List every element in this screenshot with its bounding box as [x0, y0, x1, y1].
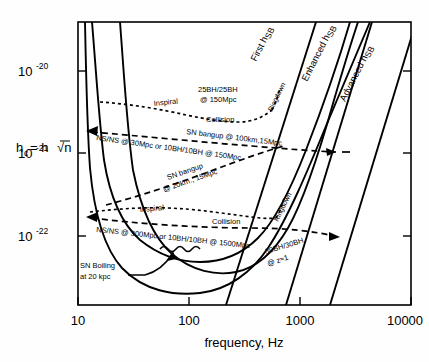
label-25bh-line1: 25BH/25BH	[198, 85, 238, 94]
label-sn-boiling-line2: at 20 kpc	[80, 272, 111, 281]
y-axis-title-h: h	[16, 140, 23, 155]
label-sn-boiling-line1: SN Boiling	[80, 261, 115, 270]
x-tick-label-100: 100	[178, 313, 200, 328]
chart-figure: 10 -20 10 -21 10 -22 h c = h √n 10 100 1…	[0, 0, 429, 362]
chart-svg: 10 -20 10 -21 10 -22 h c = h √n 10 100 1…	[0, 0, 429, 362]
label-25bh-line2: @ 150Mpc	[200, 95, 237, 104]
label-collision-top: Collision	[206, 115, 234, 124]
y-tick-exp-2: -22	[36, 226, 49, 236]
y-tick-base-0: 10	[18, 64, 32, 79]
y-tick-label-1e-20: 10 -20	[18, 61, 49, 79]
y-axis-title-rest: = h	[30, 140, 48, 155]
y-tick-exp-0: -20	[36, 61, 49, 71]
y-axis-title: h c = h √n	[16, 140, 71, 158]
x-tick-label-1000: 1000	[286, 313, 315, 328]
x-tick-label-10: 10	[71, 313, 85, 328]
x-tick-label-10000: 10000	[387, 313, 423, 328]
y-tick-base-2: 10	[18, 229, 32, 244]
x-axis-title: frequency, Hz	[204, 335, 283, 350]
y-tick-label-1e-22: 10 -22	[18, 226, 49, 244]
y-axis-title-sqrt: √n	[57, 140, 71, 155]
label-collision-mid: Collision	[212, 217, 240, 226]
